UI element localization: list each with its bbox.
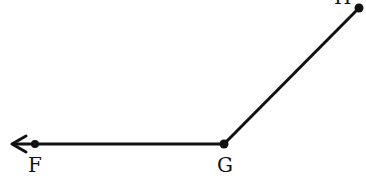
point-h xyxy=(355,4,364,13)
angle-diagram: F G H xyxy=(0,0,366,183)
label-h: H xyxy=(334,0,351,9)
point-f xyxy=(31,140,39,148)
segment-gh xyxy=(224,8,359,144)
label-g: G xyxy=(217,153,233,177)
point-g xyxy=(220,140,229,149)
label-f: F xyxy=(28,153,42,177)
